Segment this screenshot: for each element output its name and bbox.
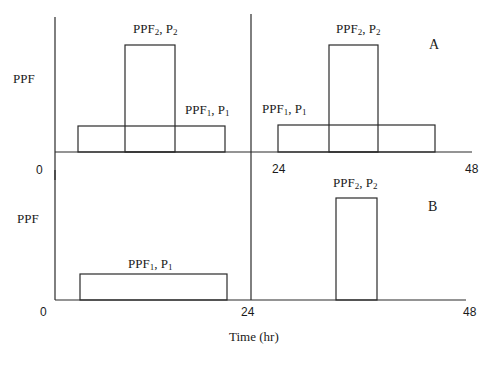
panel-a-ppf1-label-day2: PPF1, P1 (262, 102, 306, 117)
panel-a-tick-24: 24 (272, 163, 285, 175)
x-axis-title: Time (hr) (229, 330, 279, 343)
panel-b-letter: B (428, 200, 437, 214)
panel-b-ppf2-label: PPF2, P2 (333, 176, 377, 191)
panel-a-y-label: PPF (13, 72, 35, 85)
panel-a-ppf1-label-day1: PPF1, P1 (185, 103, 229, 118)
panel-a-ppf2-day2 (329, 45, 378, 152)
panel-b-tick-48: 48 (463, 306, 476, 318)
panel-a-letter: A (429, 38, 439, 52)
panel-b-tick-0: 0 (40, 306, 47, 318)
panel-a-ppf2-label-day1: PPF2, P2 (133, 22, 177, 37)
panel-b-ppf1-label: PPF1, P1 (128, 257, 172, 272)
panel-a-ppf2-label-day2: PPF2, P2 (336, 22, 380, 37)
panel-a-tick-0: 0 (36, 164, 43, 176)
panel-b-y-label: PPF (17, 212, 39, 225)
panel-b-tick-24: 24 (241, 306, 254, 318)
panel-b-ppf2 (336, 198, 377, 300)
panel-b-ppf1 (80, 274, 227, 300)
panel-a-tick-48: 48 (465, 163, 478, 175)
panel-a-ppf2-day1 (125, 45, 175, 152)
